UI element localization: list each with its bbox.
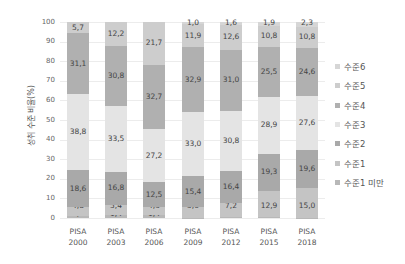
segment-value-label: 5,7 <box>61 24 95 32</box>
segment-value-label: 12,2 <box>99 30 133 38</box>
segment-value-label: 19,3 <box>252 168 286 176</box>
segment-value-label: 12,6 <box>214 33 248 41</box>
x-tick-line1: PISA <box>211 226 251 237</box>
segment-value-label: 1,9 <box>252 19 286 27</box>
legend-item: 수준2 <box>335 137 365 147</box>
x-tick-label: PISA2012 <box>211 226 251 248</box>
legend-swatch-icon <box>335 83 340 88</box>
legend-swatch-icon <box>335 64 340 69</box>
bar-pisa-2015: 0,712,919,328,925,510,81,9 <box>258 0 280 264</box>
x-tick-line2: 2003 <box>96 237 136 248</box>
segment-value-label: 21,7 <box>137 39 171 47</box>
y-tick-label: 100 <box>33 18 55 26</box>
x-tick-label: PISA2006 <box>134 226 174 248</box>
segment-value-label: 24,6 <box>290 68 324 76</box>
segment-value-label: 15,4 <box>176 188 210 196</box>
legend-item: 수준4 <box>335 99 365 109</box>
segment-value-label: 32,9 <box>176 76 210 84</box>
segment-value-label: 32,7 <box>137 93 171 101</box>
legend-label: 수준1 <box>344 159 365 169</box>
x-tick-line2: 2015 <box>249 237 289 248</box>
x-tick-line2: 2012 <box>211 237 251 248</box>
bar-pisa-2000: 0,94,818,638,831,15,7 <box>67 0 89 264</box>
x-tick-label: PISA2003 <box>96 226 136 248</box>
x-tick-label: PISA2009 <box>173 226 213 248</box>
segment-value-label: 30,8 <box>99 72 133 80</box>
segment-value-label: 10,8 <box>290 33 324 41</box>
x-tick-line1: PISA <box>134 226 174 237</box>
segment-value-label: 18,6 <box>61 185 95 193</box>
x-tick-label: PISA2015 <box>249 226 289 248</box>
segment-value-label: 12,9 <box>252 202 286 210</box>
x-tick-line1: PISA <box>173 226 213 237</box>
legend-swatch-icon <box>335 161 340 166</box>
segment-value-label: 16,8 <box>99 184 133 192</box>
y-tick-label: 80 <box>33 57 55 65</box>
legend-swatch-icon <box>335 141 340 146</box>
segment-value-label: 2,3 <box>290 19 324 27</box>
bar-pisa-2003: 1,45,416,833,530,812,2 <box>105 0 127 264</box>
legend-item: 수준1 미만 <box>335 176 384 186</box>
segment-value-label: 19,6 <box>290 165 324 173</box>
y-tick-label: 50 <box>33 116 55 124</box>
y-tick-label: 40 <box>33 135 55 143</box>
legend-swatch-icon <box>335 103 340 108</box>
bar-pisa-2006: 1,44,312,527,232,721,7 <box>143 0 165 264</box>
bar-pisa-2012: 0,47,216,430,831,012,61,6 <box>220 0 242 264</box>
segment-value-label: 28,9 <box>252 121 286 129</box>
stacked-bar-chart: 성취 수준 비율(%) 0102030405060708090100 0,94,… <box>0 0 405 264</box>
y-tick-label: 90 <box>33 37 55 45</box>
x-tick-line2: 2000 <box>58 237 98 248</box>
x-tick-line1: PISA <box>287 226 327 237</box>
legend-label: 수준1 미만 <box>344 178 384 188</box>
segment-value-label: 1,0 <box>176 19 210 27</box>
legend-item: 수준3 <box>335 118 365 128</box>
y-tick-label: 30 <box>33 155 55 163</box>
y-tick-label: 0 <box>33 214 55 222</box>
segment-value-label: 1,6 <box>214 19 248 27</box>
y-tick-label: 20 <box>33 174 55 182</box>
x-tick-line1: PISA <box>58 226 98 237</box>
x-tick-line1: PISA <box>96 226 136 237</box>
segment-value-label: 27,6 <box>290 119 324 127</box>
legend-item: 수준1 <box>335 157 365 167</box>
segment-value-label: 10,8 <box>252 32 286 40</box>
legend-item: 수준6 <box>335 60 365 70</box>
segment-value-label: 16,4 <box>214 183 248 191</box>
x-tick-label: PISA2018 <box>287 226 327 248</box>
y-tick-label: 60 <box>33 96 55 104</box>
y-tick-label: 70 <box>33 76 55 84</box>
x-tick-line2: 2006 <box>134 237 174 248</box>
y-tick-label: 10 <box>33 194 55 202</box>
x-tick-line1: PISA <box>249 226 289 237</box>
legend-label: 수준5 <box>344 81 365 91</box>
legend-label: 수준2 <box>344 139 365 149</box>
legend-label: 수준3 <box>344 120 365 130</box>
segment-value-label: 12,5 <box>137 191 171 199</box>
x-tick-line2: 2018 <box>287 237 327 248</box>
segment-value-label: 7,2 <box>214 202 248 210</box>
bar-pisa-2009: 0,25,615,433,032,911,91,0 <box>182 0 204 264</box>
legend-label: 수준4 <box>344 101 365 111</box>
segment-value-label: 38,8 <box>61 128 95 136</box>
segment-value-label: 30,8 <box>214 137 248 145</box>
segment-value-label: 33,0 <box>176 140 210 148</box>
segment-value-label: 31,0 <box>214 76 248 84</box>
legend-item: 수준5 <box>335 79 365 89</box>
segment-value-label: 15,0 <box>290 202 324 210</box>
legend-label: 수준6 <box>344 62 365 72</box>
segment-value-label: 27,2 <box>137 152 171 160</box>
segment-value-label: 11,9 <box>176 32 210 40</box>
x-tick-line2: 2009 <box>173 237 213 248</box>
segment-value-label: 33,5 <box>99 135 133 143</box>
segment-value-label: 25,5 <box>252 68 286 76</box>
bar-pisa-2018: 0,115,019,627,624,610,82,3 <box>296 0 318 264</box>
segment-value-label: 31,1 <box>61 60 95 68</box>
legend-swatch-icon <box>335 180 340 185</box>
legend-swatch-icon <box>335 122 340 127</box>
x-tick-label: PISA2000 <box>58 226 98 248</box>
